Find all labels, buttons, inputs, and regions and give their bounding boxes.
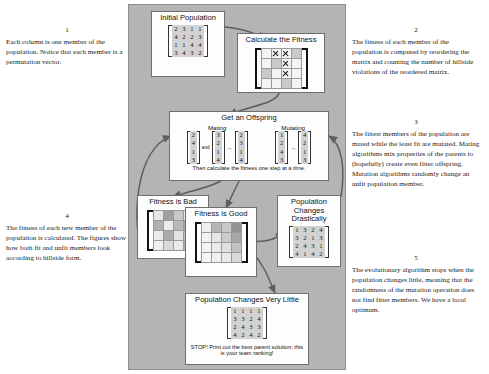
initial-population-matrix: 2311422311443432 bbox=[152, 24, 224, 61]
node-get-offspring[interactable]: Get an Offspring Mating 2413and3214→2314… bbox=[169, 111, 329, 181]
shade-cell bbox=[222, 233, 231, 242]
edge-offspring-to-good bbox=[226, 181, 239, 208]
node-population-changes-drastically[interactable]: Population Changes Drastically 132432132… bbox=[277, 195, 341, 267]
edge-drastic-back-to-offspring bbox=[329, 136, 343, 197]
x-mark-icon bbox=[282, 49, 291, 58]
mating-group: Mating 2413and3214→2314 bbox=[187, 124, 248, 165]
node-calculate-fitness[interactable]: Calculate the Fitness bbox=[237, 33, 325, 93]
matrix-cell: 3 bbox=[196, 33, 204, 41]
node-fitness-is-good[interactable]: Fitness is Good bbox=[185, 207, 257, 277]
fitness-grid-cell bbox=[272, 69, 281, 78]
vector-cell: 2 bbox=[215, 139, 222, 147]
drastic-matrix: 1324321324314142 bbox=[278, 225, 340, 262]
fitness-check-grid bbox=[238, 46, 324, 93]
note-number: 1 bbox=[6, 26, 128, 36]
mutating-arrow-icon: → bbox=[289, 145, 297, 151]
x-mark-icon bbox=[272, 49, 281, 58]
fitness-grid-cell bbox=[282, 49, 291, 58]
shade-cell bbox=[232, 253, 241, 262]
x-mark-icon bbox=[282, 69, 291, 78]
matrix-cell: 1 bbox=[247, 307, 255, 315]
shade-cell bbox=[174, 231, 183, 240]
matrix-cell: 2 bbox=[180, 33, 188, 41]
x-mark-icon bbox=[282, 59, 291, 68]
mating-label: Mating bbox=[187, 124, 248, 131]
note-text: The fitness of each member of the popula… bbox=[352, 38, 480, 78]
fitness-grid-cell bbox=[272, 59, 281, 68]
vector-cell: 3 bbox=[301, 156, 308, 164]
shade-cell bbox=[232, 233, 241, 242]
matrix-cell: 3 bbox=[172, 49, 180, 57]
vector-cell: 1 bbox=[238, 148, 245, 156]
note-text: Each column is one member of the populat… bbox=[6, 38, 128, 68]
matrix-cell: 4 bbox=[172, 33, 180, 41]
vector-cell: 4 bbox=[278, 148, 285, 156]
matrix-cell: 1 bbox=[196, 25, 204, 33]
node-initial-population[interactable]: Initial Population 2311422311443432 bbox=[151, 11, 225, 77]
matrix-cell: 4 bbox=[309, 250, 317, 258]
shade-cell bbox=[232, 243, 241, 252]
vector-cell: 1 bbox=[215, 148, 222, 156]
shade-cell bbox=[154, 211, 163, 220]
shade-cell bbox=[164, 221, 173, 230]
shade-cell bbox=[222, 243, 231, 252]
matrix-cell: 4 bbox=[255, 315, 263, 323]
shade-cell bbox=[154, 241, 163, 250]
matrix-cell: 2 bbox=[231, 323, 239, 331]
matrix-cell: 4 bbox=[188, 41, 196, 49]
fitness-grid-cell bbox=[292, 49, 301, 58]
shade-cell bbox=[202, 243, 211, 252]
annotation-note-2: 2 The fitness of each member of the popu… bbox=[352, 26, 480, 78]
shade-cell bbox=[164, 241, 173, 250]
matrix-cell: 1 bbox=[172, 41, 180, 49]
matrix-cell: 1 bbox=[180, 41, 188, 49]
matrix-cell: 2 bbox=[301, 234, 309, 242]
shade-cell bbox=[164, 211, 173, 220]
flowchart-canvas: Initial Population 2311422311443432 Calc… bbox=[128, 4, 346, 370]
note-number: 5 bbox=[352, 254, 480, 264]
mating-vectors: 2413and3214→2314 bbox=[187, 131, 248, 165]
node-title: Get an Offspring bbox=[170, 112, 328, 124]
matrix-cell: 1 bbox=[293, 226, 301, 234]
node-population-changes-very-little[interactable]: Population Changes Very Little 111133242… bbox=[185, 293, 309, 365]
shade-cell bbox=[212, 253, 221, 262]
matrix-cell: 3 bbox=[293, 234, 301, 242]
node-title: Population Changes Drastically bbox=[278, 196, 340, 225]
shade-cell bbox=[174, 241, 183, 250]
matrix-cell: 1 bbox=[255, 307, 263, 315]
note-number: 3 bbox=[352, 118, 480, 128]
fitness-grid-cell bbox=[282, 59, 291, 68]
mutating-source: 1243 bbox=[275, 131, 288, 165]
vector-cell: 4 bbox=[215, 156, 222, 164]
fitness-grid-cell bbox=[262, 69, 271, 78]
very-little-matrix: 1111332424334242 bbox=[186, 306, 308, 343]
vector-cell: 2 bbox=[301, 139, 308, 147]
mating-child: 2314 bbox=[235, 131, 248, 165]
matrix-cell: 2 bbox=[293, 242, 301, 250]
fitness-grid-cell bbox=[272, 79, 281, 88]
annotation-note-1: 1 Each column is one member of the popul… bbox=[6, 26, 128, 68]
matrix-cell: 3 bbox=[309, 242, 317, 250]
vector-cell: 2 bbox=[278, 139, 285, 147]
vector-cell: 4 bbox=[238, 156, 245, 164]
matrix-cell: 2 bbox=[309, 226, 317, 234]
shade-cell bbox=[174, 221, 183, 230]
annotation-note-4: 4 The fitness of each new member of the … bbox=[6, 212, 128, 264]
matrix-cell: 1 bbox=[231, 307, 239, 315]
mutating-group: Mutating 1243→4213 bbox=[275, 124, 311, 165]
shade-cell bbox=[154, 221, 163, 230]
node-title: Fitness is Good bbox=[186, 208, 256, 220]
matrix-cell: 2 bbox=[196, 49, 204, 57]
offspring-caption: Then calculate the fitness one step at a… bbox=[170, 164, 328, 174]
note-number: 2 bbox=[352, 26, 480, 36]
fitness-grid-cell bbox=[292, 59, 301, 68]
matrix-cell: 4 bbox=[196, 41, 204, 49]
matrix-cell: 1 bbox=[301, 250, 309, 258]
matrix-cell: 2 bbox=[317, 250, 325, 258]
mutating-result: 4213 bbox=[298, 131, 311, 165]
node-title: Calculate the Fitness bbox=[238, 34, 324, 46]
node-title: Initial Population bbox=[152, 12, 224, 24]
note-text: The fittest members of the population ar… bbox=[352, 130, 480, 190]
vector-cell: 4 bbox=[190, 139, 197, 147]
vector-cell: 4 bbox=[301, 131, 308, 139]
